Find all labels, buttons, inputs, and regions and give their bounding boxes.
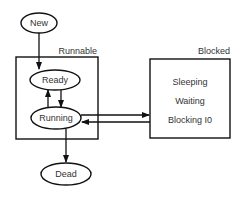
blocked-group: Blocked Sleeping Waiting Blocking I0 [150,46,230,138]
state-ready: Ready [30,70,80,90]
state-diagram: Runnable Blocked Sleeping Waiting Blocki… [0,0,242,198]
state-ready-label: Ready [42,75,69,85]
state-running: Running [31,107,81,129]
blocked-label: Blocked [198,46,230,56]
state-running-label: Running [39,113,73,123]
state-new: New [21,13,57,33]
state-dead-label: Dead [55,169,77,179]
state-new-label: New [30,18,49,28]
runnable-label: Runnable [58,46,97,56]
state-dead: Dead [41,163,91,185]
blocking-io-label: Blocking I0 [168,115,212,125]
waiting-label: Waiting [175,96,205,106]
sleeping-label: Sleeping [172,77,207,87]
